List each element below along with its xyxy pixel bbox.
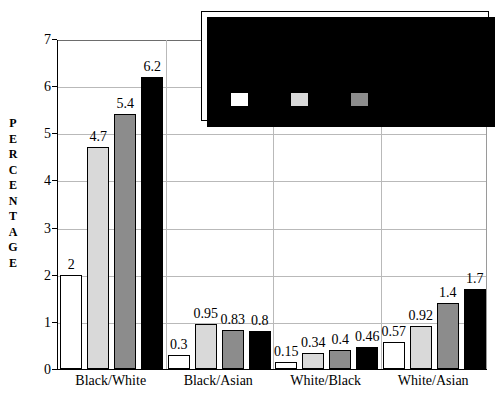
x-axis-category-label: White/Asian [380,372,488,390]
legend-swatch [230,92,249,107]
bar-value-label: 0.83 [221,313,246,327]
bar[interactable]: 0.83 [222,330,244,369]
legend-item[interactable]: 1970 [230,92,280,107]
legend-label: 1993 [434,93,460,106]
bar[interactable]: 6.2 [141,77,163,369]
legend-item[interactable]: 1993 [410,92,460,107]
bar-value-label: 0.92 [409,309,434,323]
y-axis-tick-label: 6 [21,80,51,94]
chart-title-line-2: IN THE U.S. [202,42,488,63]
legend-label: 1980 [314,93,340,106]
legend-swatch [350,92,369,107]
legend-label: 1970 [254,93,280,106]
bar[interactable]: 4.7 [87,147,109,369]
chart-title-line-1: INTERRACIAL MARRIAGES [202,21,488,42]
title-legend-card: INTERRACIAL MARRIAGES IN THE U.S. (as a … [201,11,489,121]
bar-group-bars: 24.75.46.2 [58,40,166,369]
y-axis-tick-label: 1 [21,316,51,330]
bar[interactable]: 0.34 [302,353,324,369]
bar-value-label: 6.2 [144,60,162,74]
legend-item[interactable]: 1990 [350,92,400,107]
legend-swatch [290,92,309,107]
bar-value-label: 0.46 [355,330,380,344]
legend-swatch [410,92,429,107]
bar[interactable]: 2 [60,275,82,369]
bar-value-label: 1.4 [439,286,457,300]
bar[interactable]: 0.8 [249,331,271,369]
bar-value-label: 0.15 [274,345,299,359]
bar-value-label: 0.95 [194,307,219,321]
bar-value-label: 0.57 [382,325,407,339]
bar-value-label: 0.4 [332,333,350,347]
bar[interactable]: 1.4 [437,303,459,369]
x-axis-category-label: Black/White [57,372,165,390]
bar[interactable]: 0.46 [356,347,378,369]
legend: 1970198019901993 [202,92,488,107]
legend-item[interactable]: 1980 [290,92,340,107]
bar[interactable]: 0.92 [410,326,432,369]
y-axis-tick-labels: 01234567 [17,40,51,370]
y-axis-tick-label: 5 [21,127,51,141]
bar[interactable]: 0.15 [275,362,297,369]
bar-value-label: 2 [68,258,75,272]
bar-value-label: 4.7 [90,130,108,144]
chart-subtitle: (as a percentage of all the marriages wi… [202,70,488,81]
y-axis-tick-label: 2 [21,269,51,283]
y-axis-tick-label: 7 [21,33,51,47]
bar[interactable]: 0.3 [168,355,190,369]
y-axis-tick-label: 3 [21,222,51,236]
bar[interactable]: 5.4 [114,114,136,369]
x-axis-category-label: Black/Asian [165,372,273,390]
bar-group: 24.75.46.2 [58,40,166,369]
bar-value-label: 0.34 [301,336,326,350]
bar[interactable]: 0.4 [329,350,351,369]
y-axis-tick-label: 4 [21,174,51,188]
bar-value-label: 0.3 [170,338,188,352]
bar-value-label: 0.8 [251,314,269,328]
bar-value-label: 5.4 [117,97,135,111]
x-axis-category-label: White/Black [272,372,380,390]
y-axis-tick-label: 0 [21,363,51,377]
bar[interactable]: 0.95 [195,324,217,369]
bar[interactable]: 0.57 [383,342,405,369]
x-axis-category-labels: Black/WhiteBlack/AsianWhite/BlackWhite/A… [57,372,487,394]
bar[interactable]: 1.7 [464,289,486,369]
chart-title: INTERRACIAL MARRIAGES IN THE U.S. [202,21,488,63]
bar-value-label: 1.7 [466,272,484,286]
chart-root: PERCENTAGE 01234567 24.75.46.20.30.950.8… [0,0,503,415]
legend-label: 1990 [374,93,400,106]
